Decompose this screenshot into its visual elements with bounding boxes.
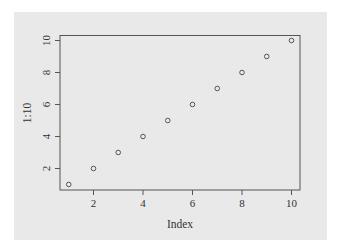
y-axis: 246810 — [40, 35, 60, 172]
x-axis: 246810 — [91, 190, 298, 209]
data-point — [165, 118, 170, 123]
y-tick-label: 4 — [40, 133, 52, 139]
x-axis-title: Index — [167, 218, 193, 230]
data-point — [141, 134, 146, 139]
data-point — [116, 150, 121, 155]
data-points — [66, 38, 293, 187]
x-tick-label: 2 — [91, 197, 97, 209]
y-tick-label: 8 — [40, 69, 52, 75]
x-tick-label: 6 — [190, 197, 196, 209]
x-tick-label: 10 — [286, 197, 298, 209]
data-point — [66, 182, 71, 187]
plot-box — [60, 36, 300, 191]
y-tick-label: 10 — [40, 35, 52, 47]
y-tick-label: 2 — [40, 166, 52, 172]
x-tick-label: 8 — [239, 197, 245, 209]
data-point — [91, 166, 96, 171]
scatter-chart: 246810 246810 Index 1:10 — [0, 0, 341, 251]
y-axis-title: 1:10 — [21, 103, 33, 124]
data-point — [289, 38, 294, 43]
y-tick-label: 6 — [40, 101, 52, 107]
x-tick-label: 4 — [140, 197, 146, 209]
data-point — [215, 86, 220, 91]
data-point — [190, 102, 195, 107]
data-point — [264, 54, 269, 59]
data-point — [240, 70, 245, 75]
